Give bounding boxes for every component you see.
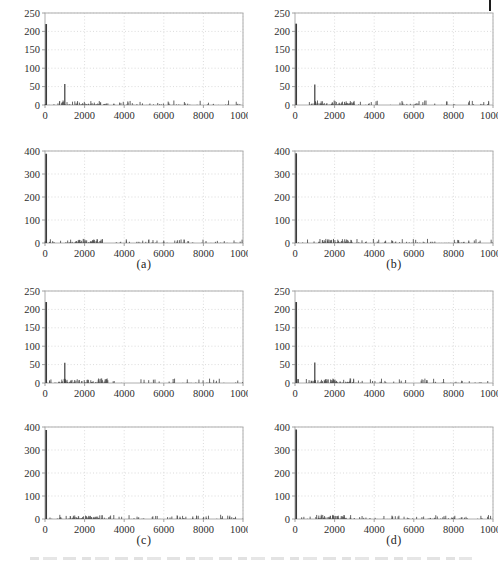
svg-text:300: 300 bbox=[274, 445, 290, 456]
svg-text:150: 150 bbox=[24, 322, 40, 333]
svg-text:250: 250 bbox=[24, 8, 40, 19]
svg-text:0: 0 bbox=[292, 248, 297, 259]
svg-text:200: 200 bbox=[274, 304, 290, 315]
chart-svg-b-top: 0200040006000800010000050100150200250 bbox=[266, 4, 498, 130]
svg-text:100: 100 bbox=[274, 63, 290, 74]
svg-text:0: 0 bbox=[292, 110, 297, 121]
svg-text:8000: 8000 bbox=[443, 248, 464, 259]
tick-labels: 02000400060008000100000100200300400 bbox=[24, 146, 248, 260]
chart-svg-a-bottom: 02000400060008000100000100200300400 bbox=[16, 142, 248, 268]
svg-text:10000: 10000 bbox=[480, 388, 498, 399]
svg-text:200: 200 bbox=[274, 468, 290, 479]
svg-text:250: 250 bbox=[274, 286, 290, 297]
chart-c-bottom: 02000400060008000100000100200300400 bbox=[16, 418, 248, 544]
svg-text:100: 100 bbox=[274, 341, 290, 352]
svg-text:10000: 10000 bbox=[480, 524, 498, 535]
tick-marks bbox=[42, 151, 243, 246]
noise-series bbox=[50, 515, 243, 519]
gridlines bbox=[295, 151, 493, 243]
tick-marks bbox=[42, 427, 243, 522]
spike-series bbox=[46, 24, 65, 105]
axis-box bbox=[45, 291, 243, 383]
svg-text:10000: 10000 bbox=[230, 524, 248, 535]
tick-marks bbox=[42, 291, 243, 386]
chart-svg-d-top: 0200040006000800010000050100150200250 bbox=[266, 282, 498, 408]
svg-text:50: 50 bbox=[30, 81, 41, 92]
svg-text:8000: 8000 bbox=[443, 110, 464, 121]
svg-text:4000: 4000 bbox=[114, 110, 135, 121]
tick-labels: 0200040006000800010000050100150200250 bbox=[274, 8, 498, 122]
chart-c-top: 0200040006000800010000050100150200250 bbox=[16, 282, 248, 408]
noise-series bbox=[45, 100, 240, 105]
panel-label-b: (b) bbox=[344, 257, 444, 272]
spike-series bbox=[46, 302, 65, 383]
gridlines bbox=[295, 13, 493, 105]
svg-text:8000: 8000 bbox=[193, 388, 214, 399]
svg-text:100: 100 bbox=[24, 491, 40, 502]
svg-text:0: 0 bbox=[35, 100, 40, 111]
svg-text:300: 300 bbox=[24, 169, 40, 180]
svg-text:6000: 6000 bbox=[153, 110, 174, 121]
svg-text:0: 0 bbox=[42, 248, 47, 259]
svg-text:50: 50 bbox=[280, 81, 291, 92]
noise-series bbox=[47, 378, 243, 383]
svg-text:400: 400 bbox=[274, 422, 290, 433]
gridlines bbox=[295, 427, 493, 519]
noise-series bbox=[299, 239, 493, 243]
svg-text:0: 0 bbox=[42, 388, 47, 399]
svg-text:2000: 2000 bbox=[324, 248, 345, 259]
svg-text:100: 100 bbox=[24, 63, 40, 74]
svg-text:2000: 2000 bbox=[324, 524, 345, 535]
svg-text:150: 150 bbox=[274, 322, 290, 333]
chart-b-bottom: 02000400060008000100000100200300400 bbox=[266, 142, 498, 268]
spike-series bbox=[296, 24, 315, 105]
svg-text:200: 200 bbox=[24, 468, 40, 479]
svg-text:8000: 8000 bbox=[193, 248, 214, 259]
chart-svg-b-bottom: 02000400060008000100000100200300400 bbox=[266, 142, 498, 268]
svg-text:10000: 10000 bbox=[230, 388, 248, 399]
tick-labels: 0200040006000800010000050100150200250 bbox=[274, 286, 498, 400]
spike-series bbox=[296, 302, 315, 383]
chart-b-top: 0200040006000800010000050100150200250 bbox=[266, 4, 498, 130]
noise-series bbox=[45, 239, 242, 243]
chart-d-top: 0200040006000800010000050100150200250 bbox=[266, 282, 498, 408]
svg-text:4000: 4000 bbox=[364, 110, 385, 121]
svg-text:0: 0 bbox=[35, 238, 40, 249]
chart-svg-c-top: 0200040006000800010000050100150200250 bbox=[16, 282, 248, 408]
svg-text:2000: 2000 bbox=[324, 110, 345, 121]
svg-text:200: 200 bbox=[24, 192, 40, 203]
svg-text:200: 200 bbox=[274, 26, 290, 37]
svg-text:50: 50 bbox=[30, 359, 41, 370]
svg-text:2000: 2000 bbox=[74, 524, 95, 535]
noise-series bbox=[298, 378, 488, 383]
svg-text:0: 0 bbox=[35, 378, 40, 389]
svg-text:8000: 8000 bbox=[443, 524, 464, 535]
svg-text:200: 200 bbox=[24, 26, 40, 37]
svg-text:50: 50 bbox=[280, 359, 291, 370]
svg-text:6000: 6000 bbox=[153, 388, 174, 399]
svg-text:0: 0 bbox=[35, 514, 40, 525]
svg-text:400: 400 bbox=[24, 146, 40, 157]
svg-text:0: 0 bbox=[285, 378, 290, 389]
svg-text:150: 150 bbox=[24, 44, 40, 55]
svg-text:2000: 2000 bbox=[74, 248, 95, 259]
tick-marks bbox=[292, 291, 493, 386]
svg-text:2000: 2000 bbox=[324, 388, 345, 399]
tick-labels: 0200040006000800010000050100150200250 bbox=[24, 286, 248, 400]
svg-text:2000: 2000 bbox=[74, 110, 95, 121]
svg-text:0: 0 bbox=[42, 524, 47, 535]
svg-text:0: 0 bbox=[285, 514, 290, 525]
tick-labels: 02000400060008000100000100200300400 bbox=[24, 422, 248, 536]
panel-label-d: (d) bbox=[344, 533, 444, 548]
figure-canvas: 0200040006000800010000050100150200250 02… bbox=[0, 0, 499, 561]
gridlines bbox=[295, 291, 493, 383]
tick-marks bbox=[292, 427, 493, 522]
svg-text:10000: 10000 bbox=[230, 248, 248, 259]
svg-text:0: 0 bbox=[42, 110, 47, 121]
svg-text:150: 150 bbox=[274, 44, 290, 55]
chart-svg-d-bottom: 02000400060008000100000100200300400 bbox=[266, 418, 498, 544]
svg-text:250: 250 bbox=[274, 8, 290, 19]
svg-text:0: 0 bbox=[285, 100, 290, 111]
svg-text:100: 100 bbox=[24, 341, 40, 352]
svg-text:8000: 8000 bbox=[443, 388, 464, 399]
